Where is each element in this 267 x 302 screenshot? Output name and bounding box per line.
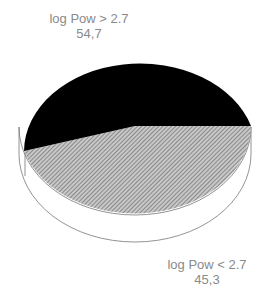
slice2-name: log Pow < 2.7: [152, 257, 262, 272]
slice1-value: 54,7: [34, 26, 144, 41]
slice2-value: 45,3: [152, 272, 262, 287]
slice1-label: log Pow > 2.7 54,7: [34, 11, 144, 41]
slice1-name: log Pow > 2.7: [34, 11, 144, 26]
slice2-label: log Pow < 2.7 45,3: [152, 257, 262, 287]
